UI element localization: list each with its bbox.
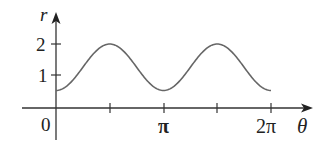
origin-label: 0 (41, 114, 51, 135)
polar-function-graph: 0 π 2π θ r 2 1 (0, 0, 321, 149)
y-tick-label-2: 2 (36, 34, 46, 55)
pi-tick-label: π (158, 115, 169, 137)
y-tick-label-1: 1 (38, 65, 48, 86)
function-curve (56, 44, 271, 91)
two-pi-tick-label: 2π (256, 115, 276, 137)
y-axis-label: r (40, 4, 48, 25)
x-axis-label: θ (297, 114, 307, 138)
